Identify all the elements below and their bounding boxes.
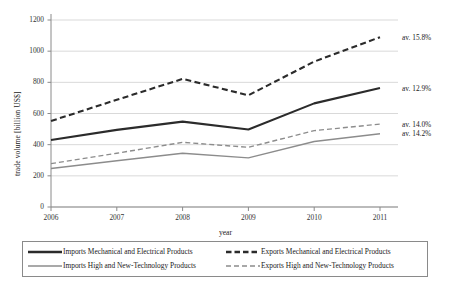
legend-label: Exports High and New-Technology Products: [261, 262, 394, 269]
y-tick-label: 1000: [18, 47, 44, 54]
y-tick-label: 1200: [18, 16, 44, 23]
legend-label: Imports Mechanical and Electrical Produc…: [63, 248, 193, 255]
y-axis-title: trade volume [billion US$]: [13, 91, 22, 176]
legend-row: Imports High and New-Technology Products…: [27, 259, 423, 273]
chart-legend: Imports Mechanical and Electrical Produc…: [22, 241, 428, 277]
legend-key-solid-dark: [27, 246, 63, 258]
x-tick-label: 2009: [228, 214, 268, 221]
legend-item-imports-mechanical[interactable]: Imports Mechanical and Electrical Produc…: [27, 246, 225, 258]
series-average-annotation: av. 12.9%: [402, 84, 431, 93]
y-tick-label: 800: [18, 78, 44, 85]
y-tick-label: 0: [18, 203, 44, 210]
chart-canvas: [0, 0, 451, 232]
legend-row: Imports Mechanical and Electrical Produc…: [27, 245, 423, 259]
legend-item-imports-hightech[interactable]: Imports High and New-Technology Products: [27, 260, 225, 272]
legend-label: Exports Mechanical and Electrical Produc…: [261, 248, 391, 255]
legend-key-dashed-dark: [225, 246, 261, 258]
series-average-annotation: av. 14.2%: [402, 129, 431, 138]
legend-item-exports-hightech[interactable]: Exports High and New-Technology Products: [225, 260, 423, 272]
series-average-annotation: av. 15.8%: [402, 33, 431, 42]
x-tick-label: 2011: [360, 214, 400, 221]
plot-area: [0, 0, 451, 232]
series-average-annotation: av. 14.0%: [402, 120, 431, 129]
x-tick-label: 2006: [31, 214, 71, 221]
legend-key-solid-light: [27, 260, 63, 272]
x-tick-label: 2007: [97, 214, 137, 221]
legend-label: Imports High and New-Technology Products: [63, 262, 196, 269]
legend-item-exports-mechanical[interactable]: Exports Mechanical and Electrical Produc…: [225, 246, 423, 258]
x-axis-title: year: [0, 228, 451, 237]
x-tick-label: 2008: [163, 214, 203, 221]
legend-key-dashed-light: [225, 260, 261, 272]
chart-figure: 020040060080010001200 200620072008200920…: [0, 0, 451, 286]
x-tick-label: 2010: [294, 214, 334, 221]
